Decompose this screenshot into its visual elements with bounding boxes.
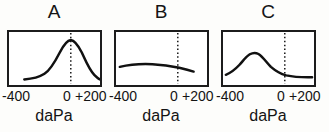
panel-b-tick-pos200: +200 — [182, 88, 214, 104]
panel-c-title: C — [214, 1, 322, 23]
panel-c-tick-zero: 0 — [277, 88, 285, 104]
panel-c-tick-pos200: +200 — [289, 88, 321, 104]
panel-c-plot — [223, 32, 314, 85]
panel-c-curve — [226, 53, 312, 77]
panel-a-curve — [24, 40, 100, 79]
panel-c-plot-box — [221, 30, 316, 87]
panel-c-unit-label: daPa — [214, 106, 322, 125]
panel-b-tick-zero: 0 — [170, 88, 178, 104]
panel-a-unit-label: daPa — [0, 106, 108, 125]
panel-c-tick-neg400: -400 — [216, 88, 244, 104]
panel-b-curve — [120, 64, 194, 72]
panel-b-unit-label: daPa — [107, 106, 215, 125]
tympanogram-figure: A -400 0 +200 daPa B -400 0 +200 daPa — [0, 0, 329, 132]
panel-a-plot-box — [7, 30, 102, 87]
panel-a: A -400 0 +200 daPa — [0, 0, 108, 132]
panel-a-tick-pos200: +200 — [75, 88, 107, 104]
panel-b-title: B — [107, 1, 215, 23]
panel-b-ticks: -400 0 +200 — [107, 88, 215, 104]
panel-b-plot — [116, 32, 207, 85]
panel-a-tick-neg400: -400 — [2, 88, 30, 104]
panel-a-ticks: -400 0 +200 — [0, 88, 108, 104]
panel-b: B -400 0 +200 daPa — [107, 0, 215, 132]
panel-a-tick-zero: 0 — [63, 88, 71, 104]
panel-b-tick-neg400: -400 — [109, 88, 137, 104]
panel-a-plot — [9, 32, 100, 85]
panel-a-title: A — [0, 1, 108, 23]
panel-b-plot-box — [114, 30, 209, 87]
panel-c-ticks: -400 0 +200 — [214, 88, 322, 104]
panel-c: C -400 0 +200 daPa — [214, 0, 322, 132]
